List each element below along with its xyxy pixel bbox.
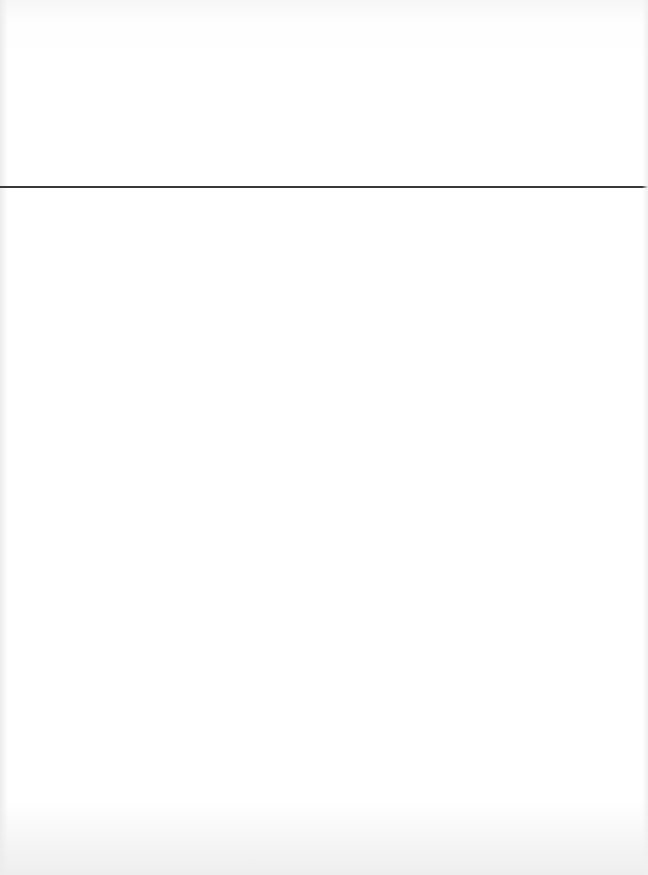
document-page	[0, 0, 648, 875]
page-header-area	[0, 0, 648, 186]
page-body-area	[0, 188, 648, 875]
